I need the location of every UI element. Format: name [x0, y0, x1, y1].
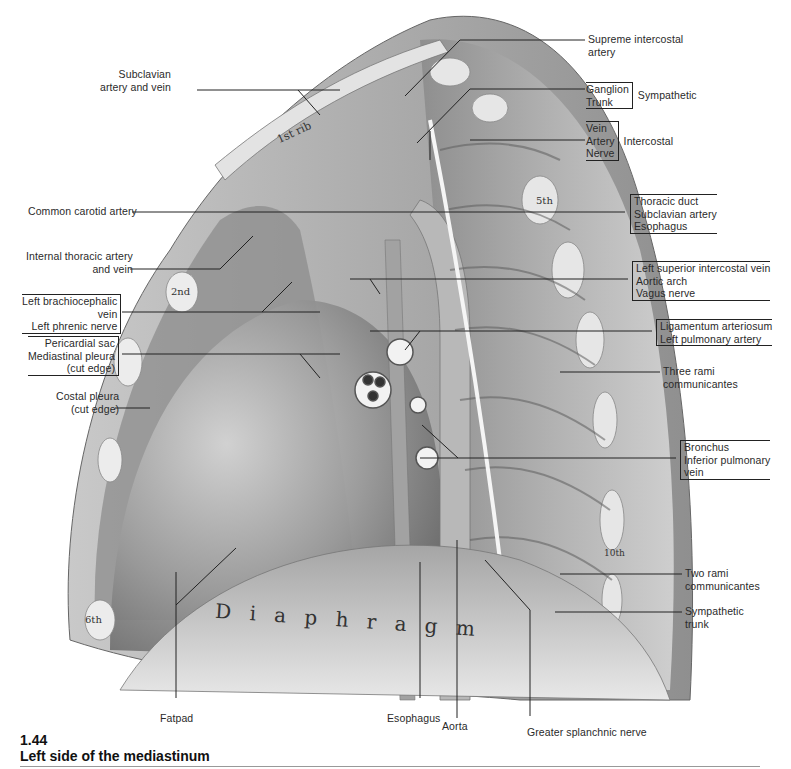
label-line: Subclavian artery: [634, 208, 717, 221]
label-thoracic-group: Thoracic duct Subclavian artery Esophagu…: [630, 194, 717, 234]
label-ligamentum-group: Ligamentum arteriosum Left pulmonary art…: [656, 319, 772, 346]
label-fatpad: Fatpad: [160, 712, 193, 725]
caption-divider: [20, 766, 760, 767]
label-line: and vein: [26, 263, 133, 276]
label-line: Vagus nerve: [636, 287, 770, 300]
sympathetic-items: Ganglion Trunk: [586, 82, 633, 109]
label-line: Internal thoracic artery: [26, 250, 133, 263]
label-line: Left superior intercostal vein: [636, 262, 770, 275]
label-line: Two rami: [685, 567, 760, 580]
label-bronchus-group: Bronchus Inferior pulmonary vein: [680, 440, 770, 480]
label-subclavian: Subclavian artery and vein: [100, 68, 171, 93]
rib-6-label: 6th: [85, 614, 102, 625]
label-line: Artery: [586, 135, 615, 148]
label-line: artery: [588, 46, 683, 59]
label-line: Costal pleura: [56, 390, 119, 403]
label-line: Left brachiocephalic: [22, 295, 117, 308]
label-line: Pericardial sac: [28, 337, 115, 350]
label-line: Left pulmonary artery: [660, 333, 772, 346]
label-line: (cut edge): [28, 362, 115, 375]
label-line: Thoracic duct: [634, 195, 717, 208]
label-line: Subclavian: [100, 68, 171, 81]
figure-number: 1.44: [20, 732, 47, 748]
rib-2-label: 2nd: [171, 286, 190, 297]
label-line: (cut edge): [56, 403, 119, 416]
label-line: Trunk: [586, 96, 629, 109]
label-two-rami: Two rami communicantes: [685, 567, 760, 592]
label-line: Ligamentum arteriosum: [660, 320, 772, 333]
label-line: Sympathetic: [685, 605, 744, 618]
label-intercostal-group: Vein Artery Nerve Intercostal: [586, 121, 673, 161]
label-sympathetic-trunk: Sympathetic trunk: [685, 605, 744, 630]
label-greater-splanchnic: Greater splanchnic nerve: [527, 726, 647, 739]
label-arch-group: Left superior intercostal vein Aortic ar…: [632, 261, 770, 301]
label-line: trunk: [685, 618, 744, 631]
label-line: Esophagus: [634, 220, 717, 233]
intercostal-items: Vein Artery Nerve: [586, 121, 619, 161]
label-supreme-intercostal: Supreme intercostal artery: [588, 33, 683, 58]
label-line: communicantes: [685, 580, 760, 593]
rib-5-label: 5th: [536, 195, 553, 206]
label-line: Vein: [586, 122, 615, 135]
label-line: Ganglion: [586, 83, 629, 96]
intercostal-group-name: Intercostal: [624, 135, 674, 148]
label-esophagus: Esophagus: [387, 712, 440, 725]
label-line: artery and vein: [100, 81, 171, 94]
label-aorta: Aorta: [442, 720, 468, 733]
label-pericardial-group: Pericardial sac Mediastinal pleura (cut …: [28, 336, 119, 376]
rib-10-label: 10th: [604, 548, 625, 558]
label-line: Bronchus: [684, 441, 770, 454]
label-three-rami: Three rami communicantes: [663, 365, 738, 390]
label-sympathetic-group: Ganglion Trunk Sympathetic: [586, 82, 697, 109]
label-line: Nerve: [586, 147, 615, 160]
label-line: Left phrenic nerve: [22, 320, 117, 333]
label-common-carotid: Common carotid artery: [28, 205, 137, 218]
label-line: Three rami: [663, 365, 738, 378]
sympathetic-group-name: Sympathetic: [638, 89, 697, 102]
figure-title: Left side of the mediastinum: [20, 748, 210, 764]
label-line: Mediastinal pleura: [28, 350, 115, 363]
label-line: communicantes: [663, 378, 738, 391]
label-line: Supreme intercostal: [588, 33, 683, 46]
label-brachiocephalic-group: Left brachiocephalic vein Left phrenic n…: [22, 294, 121, 334]
label-line: Inferior pulmonary: [684, 454, 770, 467]
label-costal-pleura: Costal pleura (cut edge): [56, 390, 119, 415]
label-line: vein: [22, 308, 117, 321]
label-internal-thoracic: Internal thoracic artery and vein: [26, 250, 133, 275]
figure-stage: 1st rib 2nd 5th 6th 10th D i a p h r a g…: [0, 0, 791, 769]
label-line: Aortic arch: [636, 275, 770, 288]
label-line: vein: [684, 466, 770, 479]
